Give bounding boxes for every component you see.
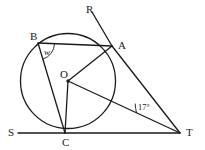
segment-B-A bbox=[38, 43, 112, 46]
segment-B-C bbox=[38, 43, 65, 133]
segment-O-C bbox=[65, 81, 68, 133]
angle-label-17-degrees: 17° bbox=[138, 103, 150, 112]
angle-label-w: w bbox=[44, 48, 50, 57]
point-label-C: C bbox=[62, 137, 69, 148]
segment-A-T bbox=[112, 46, 180, 133]
geometry-canvas bbox=[0, 0, 205, 150]
point-label-B: B bbox=[30, 31, 37, 42]
point-label-R: R bbox=[86, 4, 93, 15]
point-label-A: A bbox=[118, 40, 126, 51]
geometry-figure: R B A O S C T w 17° bbox=[0, 0, 205, 150]
segment-O-A bbox=[68, 46, 112, 81]
point-label-T: T bbox=[186, 127, 193, 138]
point-label-O: O bbox=[60, 69, 68, 80]
point-label-S: S bbox=[8, 127, 14, 138]
segment-R-A bbox=[92, 12, 112, 46]
